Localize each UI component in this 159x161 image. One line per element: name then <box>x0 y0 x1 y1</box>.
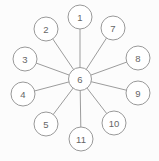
node-11: 11 <box>69 127 93 151</box>
node-label-5: 5 <box>43 119 48 130</box>
nodes-layer: 1234567891011 <box>11 5 150 151</box>
node-7: 7 <box>101 16 125 40</box>
node-label-7: 7 <box>110 23 115 34</box>
hub-spoke-diagram: 1234567891011 <box>0 0 159 161</box>
node-label-6: 6 <box>77 74 82 85</box>
node-10: 10 <box>102 111 126 135</box>
node-label-9: 9 <box>135 88 140 99</box>
node-1: 1 <box>68 5 92 29</box>
hub-node-6: 6 <box>69 68 92 91</box>
node-label-4: 4 <box>20 89 25 100</box>
node-2: 2 <box>34 17 58 41</box>
diagram-canvas: 1234567891011 <box>0 0 159 161</box>
node-label-3: 3 <box>22 54 27 65</box>
node-8: 8 <box>126 46 150 70</box>
node-label-1: 1 <box>77 12 82 23</box>
node-4: 4 <box>11 82 35 106</box>
node-9: 9 <box>126 81 150 105</box>
node-label-10: 10 <box>109 118 120 129</box>
node-5: 5 <box>34 112 58 136</box>
node-label-8: 8 <box>135 53 140 64</box>
node-label-2: 2 <box>43 24 48 35</box>
node-label-11: 11 <box>76 134 86 145</box>
node-3: 3 <box>13 47 37 71</box>
